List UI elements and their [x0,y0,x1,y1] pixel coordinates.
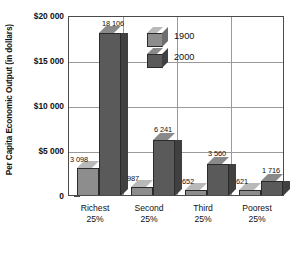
y-tick-label-20000: $20 000 [34,11,68,21]
bar-top [261,174,283,181]
category-label-richest: Richest 25% [68,203,122,225]
legend-label-2000: 2000 [174,52,194,62]
chart-container: Per Capita Economic Output (in dollars) … [0,0,303,256]
legend-item-1900: 1900 [147,27,194,45]
value-label-third-1900: 652 [182,177,194,186]
legend-swatch-1900-icon [147,27,169,45]
category-label-second-line1: Second [122,203,176,214]
bar-second-2000 [153,140,175,196]
bar-poorest-2000 [261,181,283,196]
y-tick-label-10000: $10 000 [34,101,68,111]
category-label-richest-line1: Richest [68,203,122,214]
legend-label-1900: 1900 [174,31,194,41]
bar-front [77,168,99,196]
value-label-poorest-2000: 1 716 [262,166,280,175]
value-label-third-2000: 3 560 [208,149,226,158]
value-label-poorest-1900: 621 [236,177,248,186]
value-label-second-1900: 987 [127,174,139,183]
plot-area: 3 098 18 106 987 6 241 652 3 560 621 1 7… [68,16,284,196]
category-label-richest-line2: 25% [68,214,122,225]
x-axis-baseline [68,195,284,196]
bar-richest-1900 [77,168,99,196]
y-tick-label-0: 0 [59,191,68,201]
category-label-poorest-line1: Poorest [230,203,284,214]
y-tick-mark-0 [74,196,80,197]
bar-third-2000 [207,164,229,196]
value-label-richest-1900: 3 098 [70,155,88,164]
legend-item-2000: 2000 [147,48,194,66]
category-label-second-line2: 25% [122,214,176,225]
value-label-second-2000: 6 241 [154,125,172,134]
y-tick-label-15000: $15 000 [34,56,68,66]
bar-front [207,164,229,196]
bar-front [153,140,175,196]
category-label-second: Second 25% [122,203,176,225]
y-tick-label-5000: $5 000 [38,146,68,156]
category-label-third: Third 25% [176,203,230,225]
value-label-richest-2000: 18 106 [102,19,124,28]
bar-richest-2000 [99,33,121,196]
bar-front [261,181,283,196]
category-label-third-line1: Third [176,203,230,214]
bar-side [175,140,182,196]
category-label-third-line2: 25% [176,214,230,225]
bar-side [283,181,290,196]
y-axis-tick-labels: $20 000 $15 000 $10 000 $5 000 0 [12,0,68,256]
bar-side [229,164,236,196]
category-label-poorest-line2: 25% [230,214,284,225]
bar-front [99,33,121,196]
bar-top [207,157,229,164]
bar-top [153,133,175,140]
bar-side [121,33,128,196]
category-label-poorest: Poorest 25% [230,203,284,225]
legend-swatch-2000-icon [147,48,169,66]
